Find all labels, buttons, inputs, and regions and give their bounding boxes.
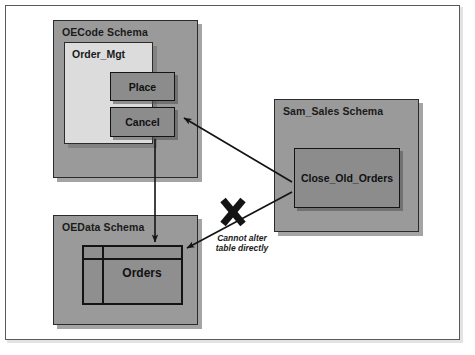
table-column-divider (102, 247, 104, 303)
procedure-box-place[interactable]: Place (110, 72, 175, 101)
procedure-label-close-old-orders: Close_Old_Orders (301, 172, 393, 184)
blocked-caption-line-2: table directly (196, 243, 288, 254)
table-header-divider (84, 258, 181, 260)
schema-title-samsales: Sam_Sales Schema (283, 105, 383, 117)
procedure-label-cancel: Cancel (125, 116, 159, 128)
procedure-label-place: Place (129, 81, 156, 93)
schema-title-oedata: OEData Schema (62, 221, 144, 233)
diagram-canvas: OECode Schema Order_Mgt Place Cancel Sam… (0, 0, 475, 355)
package-title-order-mgt: Order_Mgt (72, 48, 125, 60)
schema-title-oecode: OECode Schema (62, 26, 148, 38)
procedure-box-close-old-orders[interactable]: Close_Old_Orders (294, 148, 400, 208)
procedure-box-cancel[interactable]: Cancel (110, 107, 175, 137)
table-label-orders: Orders (107, 266, 177, 280)
